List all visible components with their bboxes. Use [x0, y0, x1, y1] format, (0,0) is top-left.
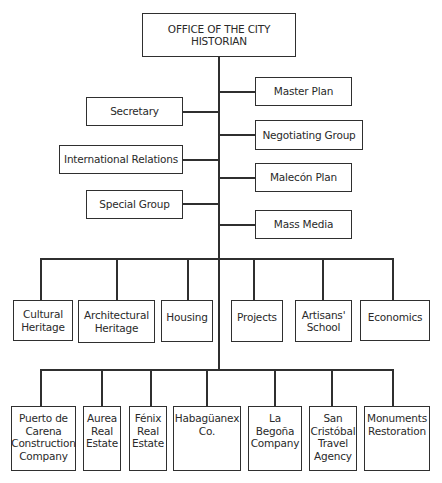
- dept-artisans-school: Artisans' School: [295, 300, 352, 342]
- staff-malecon-plan: Malecón Plan: [255, 163, 352, 192]
- drop-projects: [253, 258, 255, 300]
- staff-negotiating-group: Negotiating Group: [255, 120, 363, 150]
- ent-label: Fénix Real Estate: [132, 412, 164, 450]
- dept-label: Projects: [237, 311, 277, 324]
- staff-international-relations: International Relations: [59, 145, 183, 174]
- dept-label: Architectural Heritage: [84, 309, 149, 334]
- ent-monuments-restoration: Monuments Restoration: [364, 406, 430, 471]
- ent-habaguanex: Habagüanex Co.: [173, 406, 241, 471]
- ent-label: Aurea Real Estate: [86, 412, 118, 450]
- drop-monuments: [392, 369, 394, 406]
- staff-label: Mass Media: [274, 218, 333, 231]
- ent-label: La Begoña Company: [251, 412, 300, 450]
- drop-habaguanex: [206, 369, 208, 406]
- staff-label: International Relations: [64, 153, 178, 166]
- drop-aurea: [101, 369, 103, 406]
- dept-label: Artisans' School: [302, 309, 346, 334]
- dept-label: Cultural Heritage: [21, 308, 65, 333]
- staff-mass-media: Mass Media: [255, 210, 352, 239]
- departments-bar: [40, 258, 393, 260]
- drop-housing: [187, 258, 189, 300]
- ent-fenix-real-estate: Fénix Real Estate: [129, 406, 167, 471]
- connector-international-relations: [182, 159, 219, 161]
- ent-san-cristobal: San Cristóbal Travel Agency: [309, 406, 357, 471]
- dept-architectural-heritage: Architectural Heritage: [78, 300, 155, 343]
- ent-label: San Cristóbal Travel Agency: [311, 412, 356, 462]
- dept-label: Housing: [166, 311, 207, 324]
- root-office-city-historian: OFFICE OF THE CITY HISTORIAN: [142, 13, 296, 57]
- connector-negotiating-group: [219, 134, 255, 136]
- main-trunk-line: [218, 56, 220, 370]
- drop-architectural: [116, 258, 118, 300]
- ent-la-begona: La Begoña Company: [248, 406, 302, 471]
- drop-artisans: [322, 258, 324, 300]
- staff-label: Negotiating Group: [262, 129, 355, 142]
- staff-special-group: Special Group: [86, 190, 183, 219]
- staff-label: Secretary: [110, 105, 159, 118]
- ent-puerto-de-carena: Puerto de Carena Construction Company: [11, 406, 76, 471]
- root-label: OFFICE OF THE CITY HISTORIAN: [168, 23, 270, 48]
- connector-mass-media: [219, 224, 255, 226]
- drop-cultural: [40, 258, 42, 300]
- staff-label: Special Group: [99, 198, 170, 211]
- dept-projects: Projects: [231, 300, 283, 342]
- drop-fenix: [150, 369, 152, 406]
- dept-label: Economics: [368, 311, 423, 324]
- ent-label: Puerto de Carena Construction Company: [11, 412, 75, 462]
- staff-label: Master Plan: [274, 85, 333, 98]
- ent-label: Habagüanex Co.: [175, 412, 239, 437]
- ent-label: Monuments Restoration: [367, 412, 427, 437]
- staff-secretary: Secretary: [86, 97, 183, 126]
- ent-aurea-real-estate: Aurea Real Estate: [83, 406, 121, 471]
- dept-housing: Housing: [161, 300, 213, 342]
- connector-malecon-plan: [219, 177, 255, 179]
- dept-cultural-heritage: Cultural Heritage: [13, 300, 73, 341]
- dept-economics: Economics: [360, 300, 430, 341]
- staff-label: Malecón Plan: [270, 171, 337, 184]
- drop-puerto: [40, 369, 42, 406]
- enterprises-bar: [40, 369, 393, 371]
- connector-special-group: [182, 203, 219, 205]
- drop-economics: [392, 258, 394, 300]
- connector-master-plan: [219, 91, 255, 93]
- drop-la-begona: [274, 369, 276, 406]
- staff-master-plan: Master Plan: [255, 77, 352, 106]
- connector-secretary: [182, 111, 219, 113]
- drop-san-cristobal: [331, 369, 333, 406]
